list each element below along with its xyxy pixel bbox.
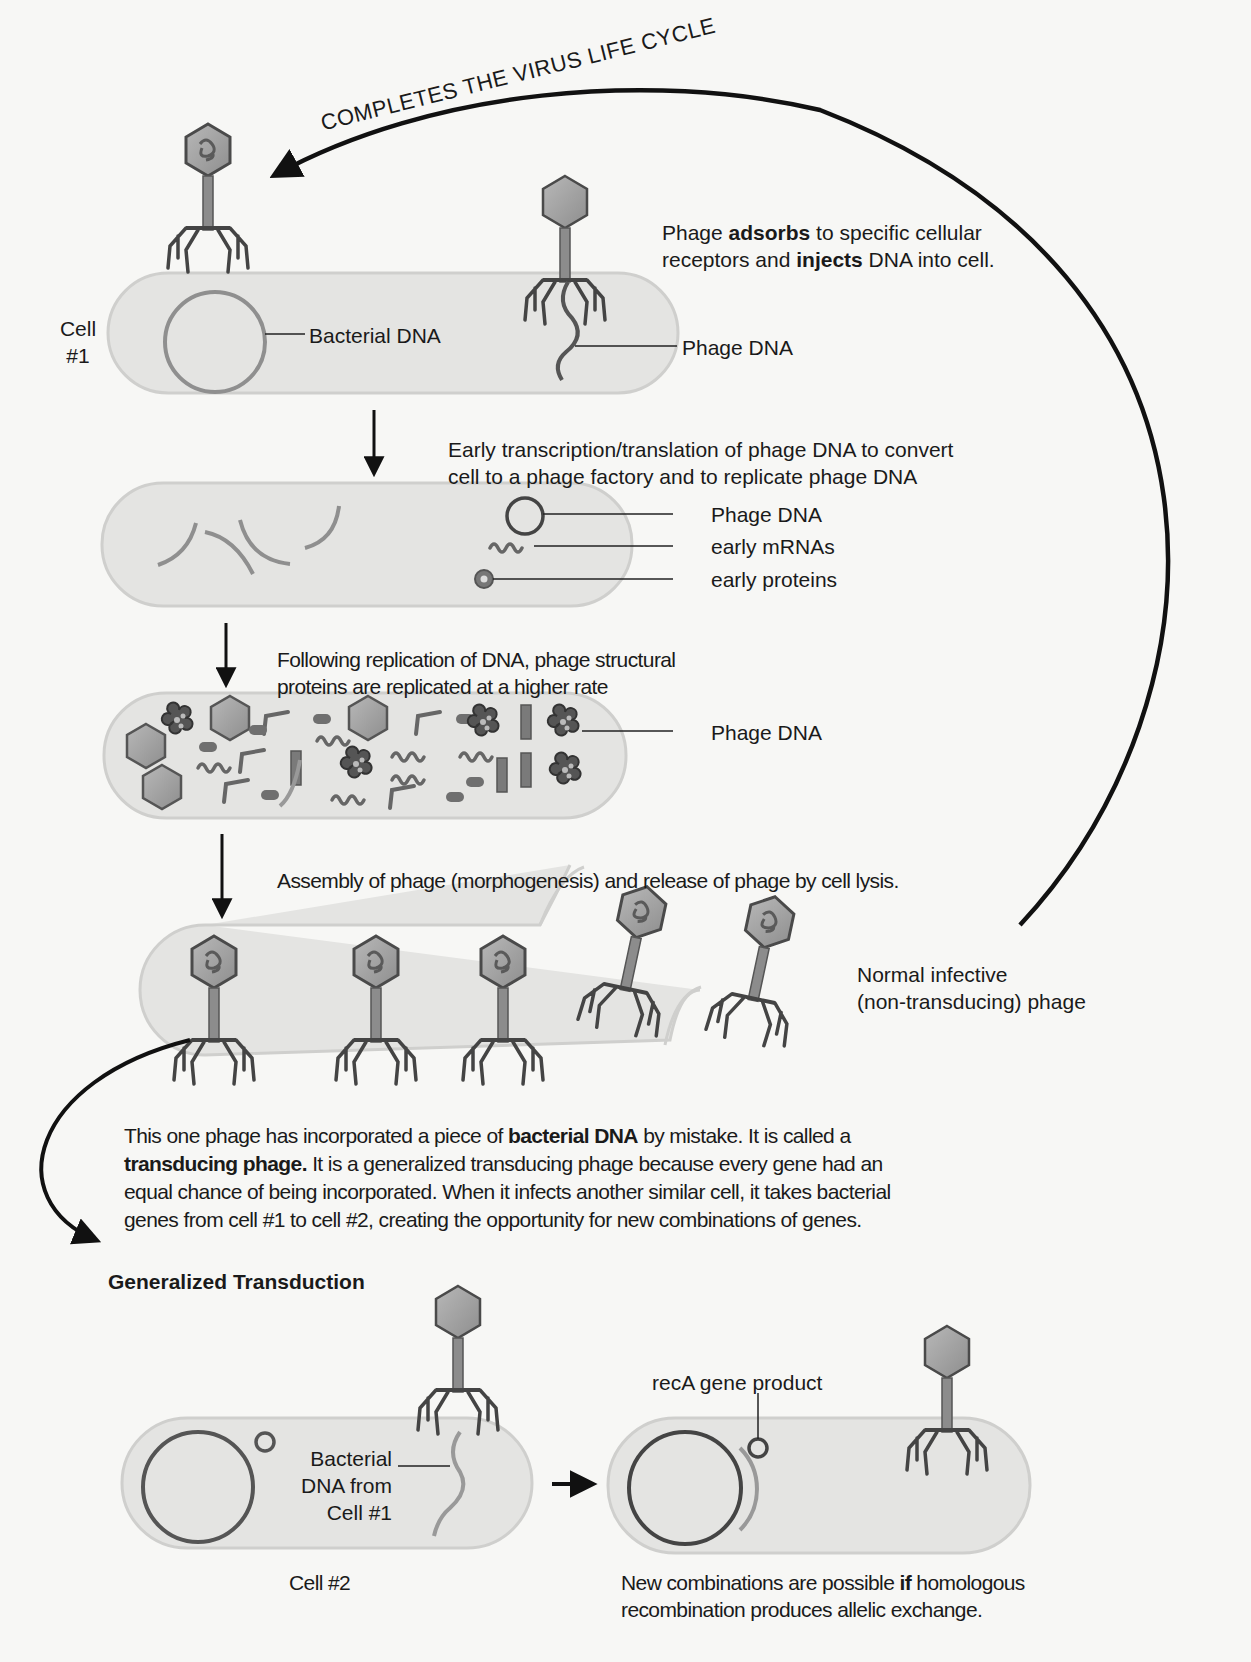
phage-dna-label-3: Phage DNA — [711, 719, 822, 746]
cell-phage-factory — [102, 483, 632, 606]
transducing-phage-note: This one phage has incorporated a piece … — [124, 1122, 891, 1234]
normal-phage-label: Normal infective (non-transducing) phage — [857, 961, 1086, 1015]
phage-dna-label: Phage DNA — [682, 334, 793, 361]
generalized-transduction-diagram: COMPLETES THE VIRUS LIFE CYCLE Cell #1 P… — [0, 0, 1251, 1662]
diagram-graphics — [0, 0, 1251, 1662]
cell-recombined — [608, 1418, 1030, 1553]
recombination-result-note: New combinations are possible if homolog… — [621, 1569, 1025, 1623]
bacterial-dna-label: Bacterial DNA — [309, 322, 441, 349]
phage-dna-label-2: Phage DNA — [711, 501, 822, 528]
step1-description: Phage adsorbs to specific cellular recep… — [662, 219, 995, 273]
cell-1-label-line2: #1 — [48, 342, 108, 369]
cell-1-label: Cell #1 — [48, 315, 108, 369]
bacterial-dna-from-cell1-label: Bacterial DNA from Cell #1 — [270, 1445, 392, 1526]
cell-2-label: Cell #2 — [289, 1569, 350, 1596]
phage-icon — [418, 1286, 498, 1434]
step4-description: Assembly of phage (morphogenesis) and re… — [277, 867, 899, 894]
early-proteins-label: early proteins — [711, 566, 837, 593]
step3-description: Following replication of DNA, phage stru… — [277, 646, 675, 700]
early-mrnas-label: early mRNAs — [711, 533, 835, 560]
released-phage-icon — [705, 888, 814, 1049]
step2-description: Early transcription/translation of phage… — [448, 436, 953, 490]
cell-1-label-line1: Cell — [48, 315, 108, 342]
phage-icon — [168, 124, 248, 272]
reca-gene-product-label: recA gene product — [652, 1369, 822, 1396]
section-title: Generalized Transduction — [108, 1268, 365, 1295]
